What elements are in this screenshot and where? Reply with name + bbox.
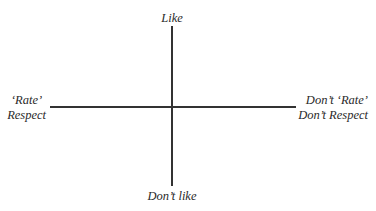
- axis-label-dont-rate-dont-respect: Don’t ‘Rate’ Don’t Respect: [296, 93, 368, 123]
- axis-label-rate: ‘Rate’: [7, 93, 46, 108]
- axis-label-respect: Respect: [7, 108, 46, 123]
- axis-label-dont-respect: Don’t Respect: [296, 108, 368, 123]
- axis-label-dont-rate: Don’t ‘Rate’: [296, 93, 368, 108]
- horizontal-axis-rate-respect: [50, 106, 296, 108]
- axis-label-like: Like: [122, 11, 222, 25]
- axis-label-rate-respect: ‘Rate’ Respect: [7, 93, 46, 123]
- axis-label-dont-like: Don’t like: [122, 189, 222, 203]
